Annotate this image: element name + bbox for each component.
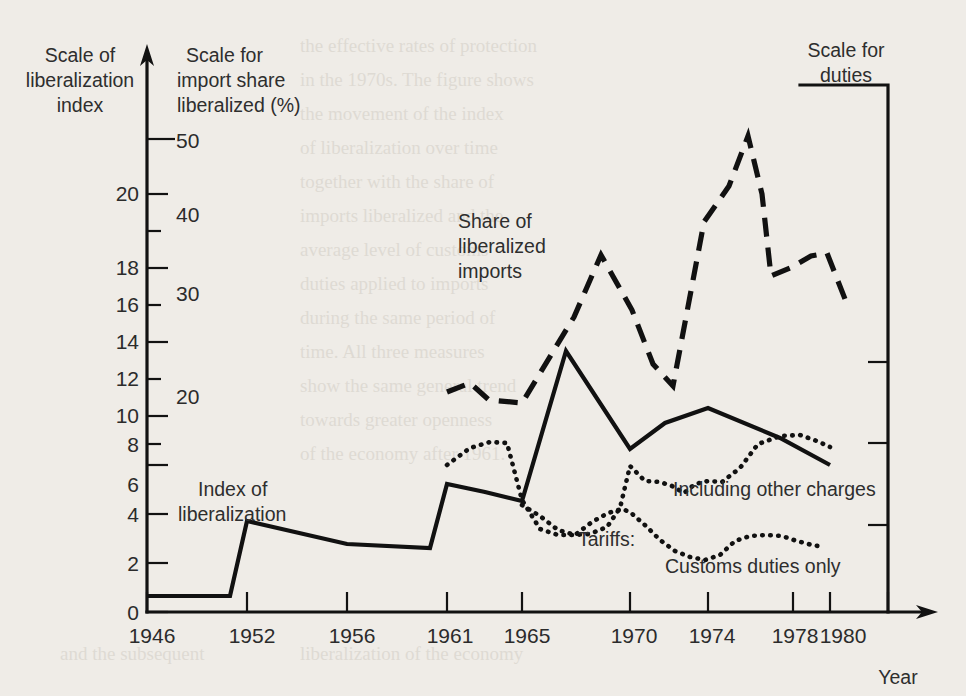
svg-text:imports: imports (458, 260, 522, 282)
svg-text:14: 14 (116, 330, 140, 353)
svg-text:during the same period of: during the same period of (300, 307, 496, 328)
svg-text:4: 4 (127, 503, 139, 526)
y-axis-duties-ticks (868, 362, 888, 525)
svg-text:0: 0 (127, 601, 139, 624)
svg-text:8: 8 (127, 433, 139, 456)
svg-text:16: 16 (116, 293, 139, 316)
svg-text:duties: duties (820, 64, 872, 86)
svg-text:the effective rates of protect: the effective rates of protection (300, 35, 538, 56)
y-axis-left (140, 44, 154, 612)
svg-text:liberalization: liberalization (26, 69, 134, 91)
svg-text:1952: 1952 (229, 624, 276, 647)
svg-text:1978: 1978 (772, 624, 819, 647)
svg-text:Index of: Index of (198, 478, 268, 500)
annotation-share-of-liberalized-imports: Share of liberalized imports (458, 210, 546, 282)
svg-text:40: 40 (176, 203, 199, 226)
left-scale-title: Scale of liberalization index (26, 44, 134, 116)
svg-text:12: 12 (116, 367, 139, 390)
svg-text:1956: 1956 (329, 624, 376, 647)
svg-text:Scale for: Scale for (808, 39, 885, 61)
svg-text:Share of: Share of (458, 210, 532, 232)
svg-text:Scale of: Scale of (45, 44, 116, 66)
y-axis-duties (800, 85, 888, 612)
svg-text:index: index (57, 94, 104, 116)
svg-text:1965: 1965 (504, 624, 551, 647)
import-share-scale-title: Scale for import share liberalized (%) (177, 44, 301, 116)
x-axis-title: Year (878, 666, 918, 688)
svg-text:the movement of the index: the movement of the index (300, 103, 504, 124)
annotation-tariffs: Tariffs: (578, 528, 635, 550)
svg-text:liberalization: liberalization (178, 503, 286, 525)
y-axis-import-share-labels: 20 30 40 50 (176, 129, 199, 408)
svg-text:20: 20 (176, 385, 199, 408)
annotation-customs-duties-only: Customs duties only (665, 555, 841, 577)
svg-text:towards greater openness: towards greater openness (300, 409, 492, 430)
svg-text:time. All three measures: time. All three measures (300, 341, 485, 362)
svg-text:20: 20 (116, 182, 139, 205)
svg-text:import share: import share (177, 69, 285, 91)
svg-text:18: 18 (116, 256, 139, 279)
annotation-including-other-charges: Including other charges (673, 478, 876, 500)
svg-text:of liberalization over time: of liberalization over time (300, 137, 498, 158)
y-axis-left-labels: 0 2 4 6 8 10 12 14 16 18 20 (116, 182, 140, 624)
svg-text:1961: 1961 (427, 624, 474, 647)
annotation-index-of-liberalization: Index of liberalization (178, 478, 286, 525)
svg-text:2: 2 (127, 552, 139, 575)
svg-text:liberalized: liberalized (458, 235, 546, 257)
series-tariffs-customs-duties-only (522, 505, 824, 560)
x-axis (147, 605, 938, 619)
chart-svg: the effective rates of protection in the… (0, 0, 966, 696)
x-axis-ticks (147, 592, 888, 612)
y-axis-left-ticks (147, 139, 175, 612)
svg-text:1970: 1970 (611, 624, 658, 647)
duties-scale-title: Scale for duties (808, 39, 885, 86)
svg-text:1980: 1980 (820, 624, 867, 647)
svg-text:together with the share of: together with the share of (300, 171, 495, 192)
svg-text:50: 50 (176, 129, 199, 152)
svg-text:1974: 1974 (689, 624, 736, 647)
svg-text:Scale for: Scale for (186, 44, 263, 66)
svg-text:6: 6 (127, 473, 139, 496)
svg-text:10: 10 (116, 404, 139, 427)
svg-text:in the 1970s. The figure shows: in the 1970s. The figure shows (300, 69, 534, 90)
svg-text:1946: 1946 (129, 624, 176, 647)
svg-text:30: 30 (176, 282, 199, 305)
chart-figure: the effective rates of protection in the… (0, 0, 966, 696)
svg-text:liberalized (%): liberalized (%) (177, 94, 301, 116)
